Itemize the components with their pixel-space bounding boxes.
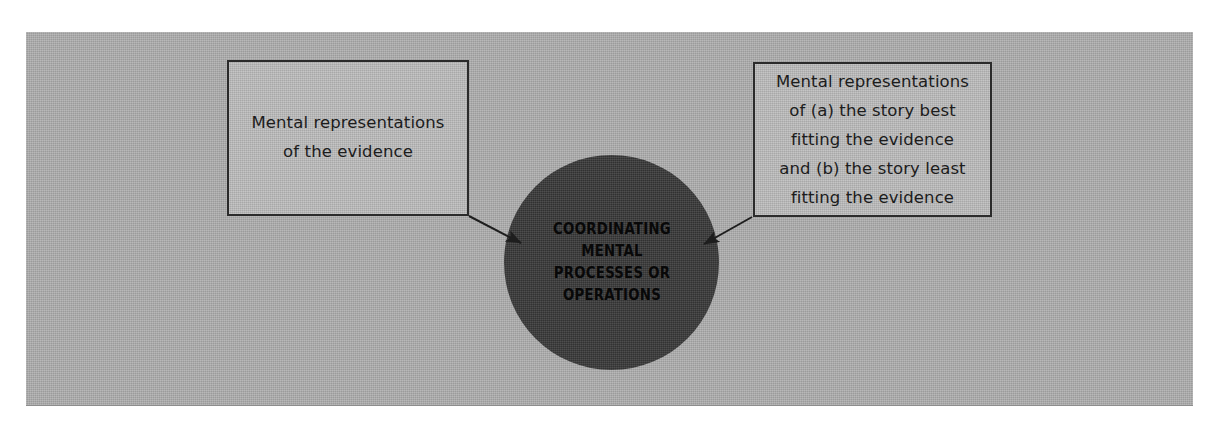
central-circle-label: COORDINATING MENTAL PROCESSES OR OPERATI… [553,218,671,308]
central-circle-node: COORDINATING MENTAL PROCESSES OR OPERATI… [504,155,719,370]
figure-canvas: Mental representations of the evidence M… [0,0,1218,428]
concept-box-evidence: Mental representations of the evidence [227,60,469,216]
concept-box-stories: Mental representations of (a) the story … [753,62,992,217]
diagram-panel: Mental representations of the evidence M… [26,32,1193,406]
concept-box-stories-label: Mental representations of (a) the story … [776,67,969,212]
concept-box-evidence-label: Mental representations of the evidence [251,108,444,168]
